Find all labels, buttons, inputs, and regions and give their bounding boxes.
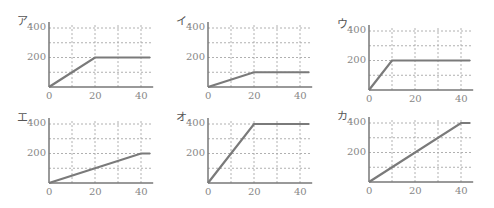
y-tick-label: 200 [347, 146, 366, 157]
x-tick-label: 0 [366, 185, 372, 196]
x-tick-label: 20 [409, 185, 422, 196]
x-tick-label: 40 [455, 185, 468, 196]
data-line [369, 123, 470, 182]
y-tick-label: 400 [347, 116, 366, 127]
chart-svg [0, 0, 494, 208]
